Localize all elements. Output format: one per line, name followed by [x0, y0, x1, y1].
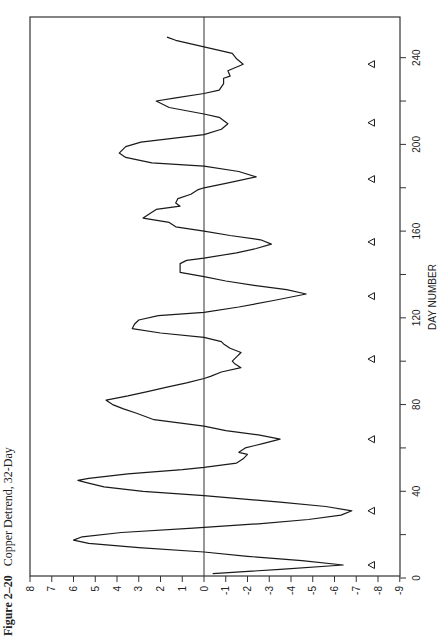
day-tick-label: 120	[411, 309, 422, 326]
day-axis: 04080120160200240	[400, 49, 422, 581]
chart-canvas: 876543210-1-2-3-4-5-6-7-8-9 040801201602…	[0, 0, 448, 640]
cycle-low-marker	[368, 61, 375, 68]
day-tick-label: 160	[411, 222, 422, 239]
value-tick-label: 0	[199, 586, 210, 592]
cycle-low-marker	[368, 293, 375, 300]
value-tick-label: -9	[394, 586, 405, 595]
day-tick-label: 240	[411, 49, 422, 66]
value-tick-label: -2	[242, 586, 253, 595]
value-tick-label: 6	[68, 586, 79, 592]
value-tick-label: 7	[46, 586, 57, 592]
day-axis-label: DAY NUMBER	[427, 264, 438, 330]
cycle-low-marker	[368, 356, 375, 363]
cycle-low-marker	[368, 119, 375, 126]
figure-caption: Copper Detrend, 32-Day	[1, 447, 15, 566]
value-tick-label: -1	[220, 586, 231, 595]
value-tick-label: 4	[112, 586, 123, 592]
value-tick-label: 1	[177, 586, 188, 592]
value-tick-label: -3	[264, 586, 275, 595]
value-tick-label: -4	[286, 586, 297, 595]
cycle-low-marker	[368, 561, 375, 568]
value-tick-label: -5	[307, 586, 318, 595]
value-tick-label: 3	[133, 586, 144, 592]
value-tick-label: -7	[351, 586, 362, 595]
cycle-low-marker	[368, 238, 375, 245]
value-tick-label: -6	[329, 586, 340, 595]
cycle-low-marker	[368, 176, 375, 183]
cycle-low-marker	[368, 436, 375, 443]
value-tick-label: 8	[25, 586, 36, 592]
value-tick-label: 2	[155, 586, 166, 592]
value-tick-label: -8	[373, 586, 384, 595]
detrend-series-line	[74, 37, 352, 574]
day-tick-label: 200	[411, 136, 422, 153]
value-tick-label: 5	[90, 586, 101, 592]
day-tick-label: 80	[411, 399, 422, 411]
plot-frame	[30, 17, 400, 576]
cycle-low-marker	[368, 507, 375, 514]
day-tick-label: 40	[411, 485, 422, 497]
value-axis: 876543210-1-2-3-4-5-6-7-8-9	[25, 576, 406, 595]
figure-number: Figure 2–20	[1, 575, 15, 636]
day-tick-label: 0	[411, 575, 422, 581]
cycle-low-markers	[368, 61, 375, 569]
figure-title: Figure 2–20 Copper Detrend, 32-Day	[1, 447, 15, 636]
